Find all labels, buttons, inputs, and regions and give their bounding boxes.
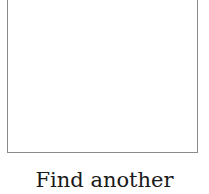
- find-another-link[interactable]: Find another: [0, 166, 209, 194]
- image-placeholder[interactable]: [7, 0, 198, 153]
